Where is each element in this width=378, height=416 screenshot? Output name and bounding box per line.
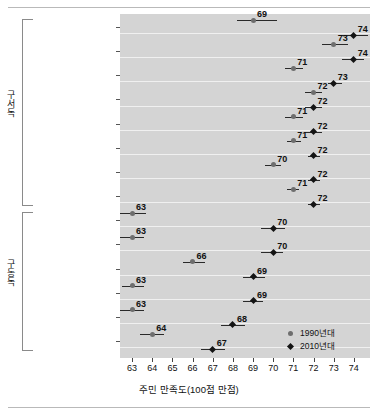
x-axis-tick-label: 73 bbox=[329, 363, 339, 373]
y-axis-tick bbox=[116, 341, 120, 342]
data-point-circle bbox=[331, 42, 336, 47]
data-point-circle bbox=[130, 283, 135, 288]
data-value-label: 73 bbox=[338, 72, 348, 82]
x-axis-tick-label: 68 bbox=[228, 363, 238, 373]
data-value-label: 71 bbox=[297, 57, 307, 67]
data-point-circle bbox=[130, 307, 135, 312]
data-value-label: 66 bbox=[197, 251, 207, 261]
data-point-circle bbox=[291, 66, 296, 71]
gridline bbox=[120, 57, 370, 58]
data-value-label: 69 bbox=[257, 266, 267, 276]
y-axis-tick bbox=[116, 269, 120, 270]
x-axis-tick-label: 65 bbox=[167, 363, 177, 373]
data-point-circle bbox=[291, 138, 296, 143]
data-value-label: 71 bbox=[297, 106, 307, 116]
diamond-marker-icon bbox=[287, 343, 294, 350]
y-axis-tick bbox=[116, 148, 120, 149]
x-axis-title: 주민 만족도(100점 만점) bbox=[0, 382, 378, 396]
legend-item-1990s: 1990년대 bbox=[286, 327, 335, 340]
legend-label-2010s: 2010년대 bbox=[300, 341, 335, 351]
plot-area: 함부르크6974슐레스비히홀슈타인7374니더작센7173헤센7272라인란트팔… bbox=[120, 14, 370, 358]
data-value-label: 74 bbox=[358, 24, 368, 34]
x-axis-tick-label: 71 bbox=[288, 363, 298, 373]
y-axis-tick bbox=[116, 317, 120, 318]
group-label: 구서독 bbox=[4, 90, 17, 117]
x-axis: 636465666768697071727374 bbox=[120, 358, 370, 378]
gridline bbox=[120, 33, 370, 34]
gridline bbox=[120, 299, 370, 300]
gridline bbox=[120, 250, 370, 251]
x-axis-tick-label: 74 bbox=[349, 363, 359, 373]
x-axis-tick bbox=[334, 358, 335, 362]
x-axis-tick bbox=[354, 358, 355, 362]
x-axis-tick bbox=[132, 358, 133, 362]
y-axis-tick bbox=[116, 124, 120, 125]
x-axis-tick bbox=[193, 358, 194, 362]
data-value-label: 72 bbox=[318, 169, 328, 179]
bottom-divider-rule bbox=[8, 407, 370, 408]
x-axis-tick-label: 72 bbox=[309, 363, 319, 373]
data-point-circle bbox=[130, 211, 135, 216]
legend-item-2010s: 2010년대 bbox=[286, 340, 335, 353]
y-axis-tick bbox=[116, 196, 120, 197]
data-value-label: 63 bbox=[136, 226, 146, 236]
group-bracket bbox=[22, 212, 33, 351]
y-axis-tick bbox=[116, 27, 120, 28]
data-value-label: 69 bbox=[257, 9, 267, 19]
data-value-label: 72 bbox=[318, 145, 328, 155]
data-value-label: 63 bbox=[136, 275, 146, 285]
x-axis-tick-label: 64 bbox=[147, 363, 157, 373]
data-point-circle bbox=[150, 332, 155, 337]
data-point-circle bbox=[291, 114, 296, 119]
x-axis-tick-label: 66 bbox=[188, 363, 198, 373]
x-axis-tick-label: 67 bbox=[208, 363, 218, 373]
group-label: 구동독 bbox=[4, 259, 17, 286]
y-axis-tick bbox=[116, 99, 120, 100]
data-value-label: 70 bbox=[277, 217, 287, 227]
x-axis-tick bbox=[213, 358, 214, 362]
data-value-label: 68 bbox=[237, 314, 247, 324]
group-bracket bbox=[22, 19, 33, 206]
chart-figure: 구서독구동독 함부르크6974슐레스비히홀슈타인7374니더작센7173헤센72… bbox=[0, 0, 378, 416]
data-point-diamond bbox=[250, 273, 257, 280]
x-axis-tick-label: 69 bbox=[248, 363, 258, 373]
x-axis-tick bbox=[253, 358, 254, 362]
data-value-label: 72 bbox=[318, 121, 328, 131]
data-point-circle bbox=[271, 162, 276, 167]
x-axis-tick bbox=[152, 358, 153, 362]
legend: 1990년대 2010년대 bbox=[286, 327, 335, 353]
data-point-circle bbox=[251, 18, 256, 23]
y-axis-tick bbox=[116, 244, 120, 245]
gridline bbox=[120, 154, 370, 155]
x-axis-tick bbox=[233, 358, 234, 362]
gridline bbox=[120, 202, 370, 203]
data-point-circle bbox=[291, 187, 296, 192]
x-axis-tick-label: 63 bbox=[127, 363, 137, 373]
data-value-label: 74 bbox=[358, 48, 368, 58]
x-axis-tick-label: 70 bbox=[268, 363, 278, 373]
data-value-label: 72 bbox=[318, 193, 328, 203]
data-value-label: 64 bbox=[156, 323, 166, 333]
data-value-label: 73 bbox=[338, 33, 348, 43]
x-axis-tick bbox=[273, 358, 274, 362]
x-axis-tick bbox=[314, 358, 315, 362]
error-bar bbox=[237, 20, 277, 21]
data-value-label: 63 bbox=[136, 299, 146, 309]
data-value-label: 72 bbox=[318, 96, 328, 106]
data-value-label: 71 bbox=[297, 130, 307, 140]
data-value-label: 70 bbox=[277, 154, 287, 164]
gridline bbox=[120, 130, 370, 131]
circle-marker-icon bbox=[288, 331, 293, 336]
gridline bbox=[120, 226, 370, 227]
data-value-label: 63 bbox=[136, 202, 146, 212]
data-point-diamond bbox=[250, 297, 257, 304]
top-divider-rule bbox=[8, 7, 370, 8]
gridline bbox=[120, 275, 370, 276]
y-axis-tick bbox=[116, 172, 120, 173]
data-point-circle bbox=[190, 259, 195, 264]
data-point-circle bbox=[311, 90, 316, 95]
x-axis-tick bbox=[293, 358, 294, 362]
gridline bbox=[120, 106, 370, 107]
x-axis-tick bbox=[172, 358, 173, 362]
data-value-label: 71 bbox=[297, 178, 307, 188]
